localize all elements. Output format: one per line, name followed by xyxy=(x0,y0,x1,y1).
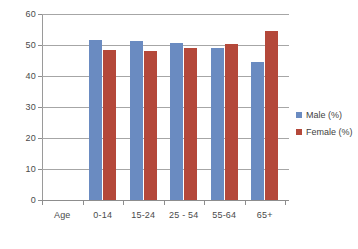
x-axis-label: 15-24 xyxy=(131,210,155,220)
y-axis-label: 60 xyxy=(6,9,36,19)
x-axis-label: 55-64 xyxy=(212,210,236,220)
y-axis-label: 50 xyxy=(6,40,36,50)
x-axis-tick xyxy=(83,200,84,205)
y-axis-label: 40 xyxy=(6,71,36,81)
bar-male xyxy=(251,62,264,200)
x-axis-label: 0-14 xyxy=(93,210,112,220)
bar-male xyxy=(130,41,143,200)
chart-legend: Male (%)Female (%) xyxy=(296,110,353,144)
y-axis-label: 10 xyxy=(6,164,36,174)
x-axis-tick xyxy=(42,200,43,205)
x-axis-label: 65+ xyxy=(257,210,273,220)
legend-item: Female (%) xyxy=(296,127,353,137)
legend-label: Female (%) xyxy=(306,127,353,137)
legend-item: Male (%) xyxy=(296,110,353,120)
bar-male xyxy=(170,43,183,200)
bar-female xyxy=(265,31,278,200)
y-axis-label: 30 xyxy=(6,102,36,112)
legend-swatch-icon xyxy=(296,112,302,118)
legend-swatch-icon xyxy=(296,129,302,135)
bar-male xyxy=(89,40,102,200)
bar-chart: 0102030405060 Age0-1415-2425 - 5455-6465… xyxy=(0,0,358,249)
x-axis-label: Age xyxy=(54,210,71,220)
x-axis-tick xyxy=(204,200,205,205)
bar-female xyxy=(184,48,197,200)
x-axis-line xyxy=(42,200,289,201)
bar-female xyxy=(225,44,238,200)
bar-female xyxy=(103,50,116,200)
legend-label: Male (%) xyxy=(306,110,342,120)
y-axis-label: 20 xyxy=(6,133,36,143)
x-axis-tick xyxy=(164,200,165,205)
bars-layer xyxy=(42,14,285,200)
x-axis-tick xyxy=(285,200,286,205)
x-axis-tick xyxy=(245,200,246,205)
bar-male xyxy=(211,48,224,200)
x-axis-tick xyxy=(123,200,124,205)
y-axis-label: 0 xyxy=(6,195,36,205)
bar-female xyxy=(144,51,157,200)
x-axis-label: 25 - 54 xyxy=(169,210,198,220)
